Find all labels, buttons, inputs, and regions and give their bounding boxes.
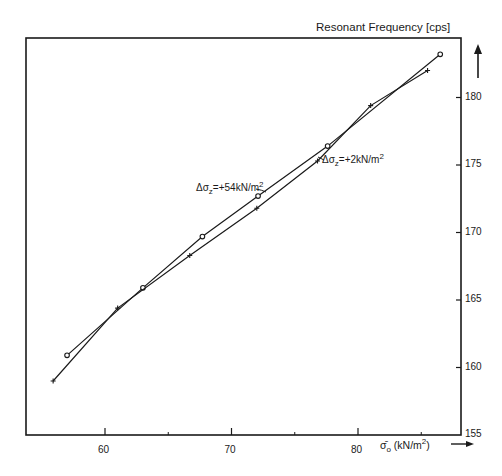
circle-marker-icon [438,52,443,57]
y-axis-title: Resonant Frequency [cps] [316,21,450,33]
chart-canvas [0,0,502,476]
annotation-54-sup: 2 [259,180,263,189]
y-tick-label: 155 [465,428,482,439]
annotation-2: Δσz=+2kN/m2 [322,152,384,168]
data-series [51,52,443,384]
annotation-54-text: =+54kN/m [213,182,259,193]
x-axis-unit-end: ) [426,439,430,451]
annotation-lines [256,44,482,447]
circle-marker-icon [65,353,70,358]
annotation-54: Δσz=+54kN/m2 [196,180,263,196]
annotation-54-delta: Δσ [196,182,209,193]
x-axis-arrowhead-icon [466,441,474,447]
x-tick-label: 80 [351,444,362,455]
plot-border [26,38,461,435]
series-2-line [53,71,427,382]
annotation-2-delta: Δσ [322,154,335,165]
annotation-2-text: =+2kN/m [339,154,380,165]
y-tick-label: 175 [465,158,482,169]
annotation-2-sup: 2 [379,152,383,161]
x-tick-label: 70 [225,444,236,455]
y-tick-label: 180 [465,91,482,102]
x-axis-title: σ̄o (kN/m2) [380,437,430,454]
plot-frame [26,38,461,435]
x-tick-label: 60 [98,444,109,455]
circle-marker-icon [200,234,205,239]
circle-marker-icon [325,144,330,149]
axis-ticks [105,98,461,436]
y-tick-label: 165 [465,293,482,304]
x-axis-unit: (kN/m [394,439,422,451]
series-54-line [67,54,440,355]
y-tick-label: 170 [465,226,482,237]
x-axis-sub: o [386,445,390,454]
y-axis-arrowhead-icon [474,44,482,54]
y-tick-label: 160 [465,361,482,372]
